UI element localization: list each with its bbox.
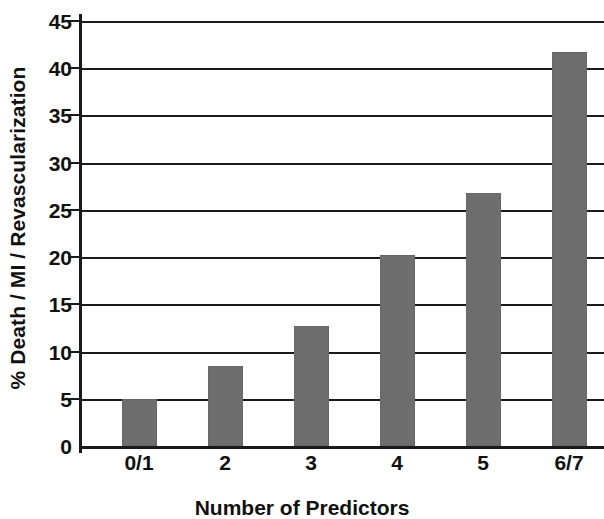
y-tick-label-10: 10 [28,341,72,362]
y-tick-mark-35 [68,114,79,116]
gridline-10 [79,352,604,354]
x-tick-label-6-7: 6/7 [554,452,583,473]
y-tick-mark-15 [68,303,79,305]
y-tick-label-5: 5 [28,388,72,409]
y-tick-label-30: 30 [28,152,72,173]
y-tick-mark-30 [68,162,79,164]
bar [208,366,243,446]
y-tick-mark-45 [68,20,79,22]
gridline-35 [79,115,604,117]
y-tick-mark-40 [68,67,79,69]
gridline-0 [79,446,604,449]
x-tick-label-5: 5 [477,452,489,473]
y-axis-tick-labels: 051015202530354045 [0,0,72,519]
y-tick-label-35: 35 [28,105,72,126]
y-tick-label-45: 45 [28,11,72,32]
bar [552,52,587,446]
gridline-45 [79,21,604,23]
x-axis-title: Number of Predictors [0,497,604,518]
gridline-5 [79,399,604,401]
y-tick-label-0: 0 [28,436,72,457]
bar [466,193,501,446]
bar [122,399,157,446]
gridline-40 [79,68,604,70]
y-tick-mark-5 [68,398,79,400]
y-tick-label-15: 15 [28,294,72,315]
bar-chart-figure: % Death / MI / Revascularization 0510152… [0,0,604,519]
y-tick-label-25: 25 [28,199,72,220]
gridline-30 [79,163,604,165]
y-tick-label-20: 20 [28,247,72,268]
gridline-25 [79,210,604,212]
plot-area [79,21,604,446]
y-tick-mark-25 [68,209,79,211]
x-tick-label-2: 2 [219,452,231,473]
x-tick-label-3: 3 [305,452,317,473]
x-axis-tick-labels: 0/123456/7 [79,452,604,482]
x-tick-label-0-1: 0/1 [124,452,153,473]
x-tick-label-4: 4 [391,452,403,473]
y-tick-label-40: 40 [28,58,72,79]
gridline-20 [79,257,604,259]
y-tick-mark-20 [68,256,79,258]
bar [380,255,415,446]
bar [294,326,329,446]
y-tick-mark-10 [68,351,79,353]
gridline-15 [79,304,604,306]
